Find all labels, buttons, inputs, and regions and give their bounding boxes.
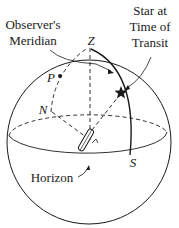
telescope-icon	[77, 128, 98, 152]
star-label-line1: Star at	[133, 3, 167, 18]
zenith-label: Z	[87, 33, 95, 48]
pole-point	[58, 74, 62, 78]
horizon-label: Horizon	[31, 170, 74, 185]
star-label-line2: Time of	[129, 19, 171, 34]
meridian-back	[51, 49, 86, 112]
observers-meridian-label-line1: Observer's	[5, 17, 60, 32]
celestial-sphere-outline	[7, 60, 171, 224]
horizon-arrowhead	[86, 165, 90, 170]
star-pointer	[127, 57, 151, 88]
celestial-sphere-diagram: Observer's Meridian Star at Time of Tran…	[0, 0, 179, 228]
star-label-line3: Transit	[132, 35, 169, 50]
meridian-arrowhead	[108, 69, 114, 74]
pole-label: P	[46, 70, 55, 85]
north-line	[52, 112, 90, 140]
north-label: N	[38, 102, 49, 117]
observers-meridian-label-line2: Meridian	[9, 33, 57, 48]
south-label: S	[130, 155, 137, 170]
